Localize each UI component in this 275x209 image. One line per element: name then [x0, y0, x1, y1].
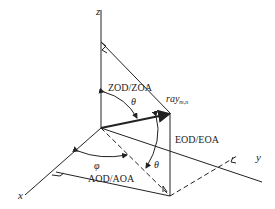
ray-vector: [101, 114, 169, 128]
y-axis-label: y: [256, 152, 261, 163]
z-axis-label: z: [96, 6, 100, 17]
coordinate-diagram: z x y ZOD/ZOA θ raym,n EOD/EOA θ φ AOD/A…: [0, 0, 275, 209]
diagram-geometry: [0, 0, 275, 209]
ray-label-subscript: m,n: [179, 99, 188, 105]
zenith-label: ZOD/ZOA: [108, 83, 152, 93]
zenith-theta-symbol: θ: [131, 97, 136, 107]
x-axis-label: x: [18, 190, 23, 201]
x-axis: [25, 128, 101, 195]
azimuth-arc: [78, 151, 127, 157]
ray-label-base: ray: [166, 93, 179, 104]
azimuth-phi-symbol: φ: [94, 161, 100, 171]
azimuth-label: AOD/AOA: [88, 174, 134, 184]
ray-label: raym,n: [166, 94, 188, 105]
elevation-label: EOD/EOA: [175, 135, 219, 145]
elevation-theta-symbol: θ: [154, 160, 159, 170]
xy-projection-dashed: [101, 128, 170, 196]
